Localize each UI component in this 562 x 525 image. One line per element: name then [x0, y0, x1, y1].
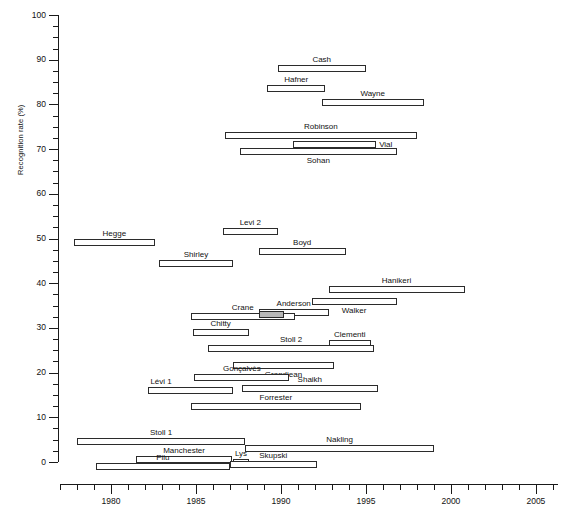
study-bar-label: Skupski	[230, 451, 317, 460]
x-axis-tick	[434, 485, 435, 490]
study-bar-label: Forrester	[191, 393, 361, 402]
y-axis-tick	[53, 395, 58, 396]
y-axis-tick-label: 0	[20, 457, 46, 467]
y-axis-tick	[53, 26, 58, 27]
x-axis-tick	[213, 485, 214, 490]
y-axis-tick	[53, 183, 58, 184]
study-bar-label: Nakling	[245, 435, 434, 444]
x-axis-tick	[230, 485, 231, 490]
x-axis-tick	[468, 485, 469, 490]
y-axis-tick-label: 100	[20, 10, 46, 20]
y-axis-tick	[53, 116, 58, 117]
study-bar-boyd	[259, 248, 346, 255]
study-bar-stoll-2	[208, 345, 375, 352]
x-axis-tick	[60, 485, 61, 490]
x-axis-tick	[264, 485, 265, 490]
x-axis-tick-label: 1985	[176, 496, 216, 506]
study-bar-sohan	[240, 148, 396, 155]
x-axis-tick	[451, 485, 452, 494]
study-bar-pilu	[96, 463, 230, 470]
x-axis-tick	[315, 485, 316, 490]
y-axis-tick	[53, 37, 58, 38]
x-axis-tick	[281, 485, 282, 494]
x-axis-tick	[196, 485, 197, 494]
x-axis-tick	[485, 485, 486, 490]
study-bar-levi-2	[223, 228, 277, 235]
x-axis-tick	[366, 485, 367, 494]
study-bar-cash	[278, 65, 366, 72]
x-axis-tick	[417, 485, 418, 490]
study-bar-skupski	[230, 461, 317, 468]
x-axis-tick	[332, 485, 333, 490]
x-axis-tick-label: 2000	[431, 496, 471, 506]
y-axis-tick	[53, 428, 58, 429]
study-bar-shaikh	[242, 385, 378, 392]
x-axis-tick	[502, 485, 503, 490]
study-bar-robinson	[225, 132, 417, 139]
x-axis-line	[60, 484, 558, 485]
study-bar-label: Cash	[278, 55, 366, 64]
y-axis-tick	[49, 104, 58, 105]
y-axis-tick	[49, 283, 58, 284]
study-bar-label: Hanikeri	[329, 276, 465, 285]
x-axis-tick	[553, 485, 554, 490]
y-axis-tick	[53, 272, 58, 273]
x-axis-tick	[145, 485, 146, 490]
y-axis-tick	[53, 261, 58, 262]
study-bar-label: Lévi 1	[150, 377, 171, 386]
y-axis-tick	[53, 216, 58, 217]
x-axis-tick-label: 1990	[261, 496, 301, 506]
study-bar-label: Gonçalvès	[194, 364, 289, 373]
y-axis-tick	[53, 82, 58, 83]
y-axis-tick	[49, 373, 58, 374]
x-axis-tick	[383, 485, 384, 490]
y-axis-title: Recognition rate (%)	[16, 105, 25, 175]
y-axis-tick	[53, 350, 58, 351]
study-bar-label: Hegge	[74, 229, 156, 238]
study-bar-hegge	[74, 239, 156, 246]
y-axis-tick	[53, 317, 58, 318]
y-axis-tick	[49, 15, 58, 16]
y-axis-line	[58, 15, 59, 462]
study-bar-label: Chitty	[193, 319, 249, 328]
y-axis-tick	[53, 294, 58, 295]
study-bar-stoll-1	[77, 438, 245, 445]
y-axis-tick	[53, 71, 58, 72]
x-axis-tick	[400, 485, 401, 490]
study-bar-label: Boyd	[259, 238, 346, 247]
x-axis-tick	[128, 485, 129, 490]
study-bar-label: Stoll 2	[208, 335, 375, 344]
x-axis-tick-label: 1995	[346, 496, 386, 506]
y-axis-tick	[53, 384, 58, 385]
y-axis-tick-label: 30	[20, 322, 46, 332]
x-axis-tick	[179, 485, 180, 490]
x-axis-tick	[519, 485, 520, 490]
y-axis-tick	[49, 60, 58, 61]
x-axis-tick-label: 2005	[516, 496, 556, 506]
x-axis-tick	[247, 485, 248, 490]
study-bar-hafner	[267, 85, 325, 92]
y-axis-tick	[49, 328, 58, 329]
y-axis-tick	[49, 417, 58, 418]
y-axis-tick	[49, 194, 58, 195]
y-axis-tick-label: 40	[20, 278, 46, 288]
y-axis-tick-label: 20	[20, 367, 46, 377]
study-bar-shirley	[159, 260, 234, 267]
y-axis-tick	[53, 205, 58, 206]
y-axis-tick	[53, 306, 58, 307]
x-axis-tick	[298, 485, 299, 490]
study-bar-label: Levi 2	[223, 218, 277, 227]
x-axis-tick	[349, 485, 350, 490]
y-axis-tick-label: 90	[20, 54, 46, 64]
study-bar-label: Robinson	[225, 122, 417, 131]
y-axis-tick	[53, 361, 58, 362]
study-bar-forrester	[191, 403, 361, 410]
y-axis-tick	[53, 227, 58, 228]
study-bar-label: Shaikh	[242, 375, 378, 384]
y-axis-tick	[53, 93, 58, 94]
y-axis-tick	[53, 127, 58, 128]
y-axis-tick	[49, 149, 58, 150]
y-axis-tick-label: 60	[20, 188, 46, 198]
y-axis-tick	[53, 406, 58, 407]
y-axis-tick	[53, 339, 58, 340]
